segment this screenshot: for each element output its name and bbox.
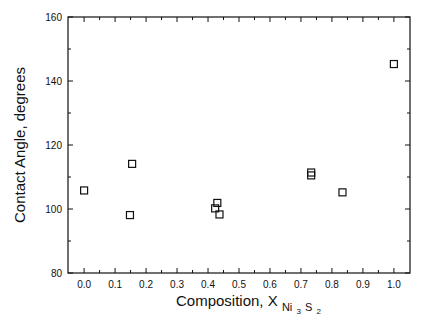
plot-frame (68, 17, 410, 273)
y-axis-ticks: 80100120140160 (45, 12, 410, 279)
y-tick-label: 80 (51, 268, 63, 279)
x-tick-label: 1.0 (387, 279, 401, 290)
x-tick-label: 0.0 (77, 279, 91, 290)
x-axis-title-sub-s: S (305, 301, 312, 313)
y-axis-title: Contact Angle, degrees (11, 67, 28, 223)
plot-border (68, 17, 410, 273)
x-tick-label: 0.8 (325, 279, 339, 290)
x-axis-title-sub-2: 2 (317, 307, 322, 316)
scatter-chart: 0.00.10.20.30.40.50.60.70.80.91.0 801001… (0, 0, 423, 330)
x-tick-label: 0.7 (294, 279, 308, 290)
x-tick-label: 0.2 (139, 279, 153, 290)
x-tick-label: 0.1 (108, 279, 122, 290)
y-tick-label: 140 (45, 76, 62, 87)
x-tick-label: 0.3 (170, 279, 184, 290)
x-axis-ticks: 0.00.10.20.30.40.50.60.70.80.91.0 (77, 17, 401, 290)
y-tick-label: 160 (45, 12, 62, 23)
data-point-square-marker (339, 189, 346, 196)
data-point-square-marker (129, 160, 136, 167)
x-tick-label: 0.5 (232, 279, 246, 290)
x-axis-title: Composition, X Ni 3 S 2 (176, 292, 322, 317)
data-point-square-marker (308, 172, 315, 179)
x-tick-label: 0.4 (201, 279, 215, 290)
y-tick-label: 100 (45, 204, 62, 215)
data-point-square-marker (390, 61, 397, 68)
y-tick-label: 120 (45, 140, 62, 151)
data-point-square-marker (81, 187, 88, 194)
data-point-square-marker (308, 169, 315, 176)
x-axis-title-sub-ni: Ni (282, 301, 292, 313)
data-points (81, 61, 398, 219)
data-point-square-marker (126, 212, 133, 219)
x-tick-label: 0.9 (356, 279, 370, 290)
x-tick-label: 0.6 (263, 279, 277, 290)
x-axis-title-main: Composition, X (176, 292, 278, 309)
x-axis-title-sub-3: 3 (296, 307, 301, 316)
